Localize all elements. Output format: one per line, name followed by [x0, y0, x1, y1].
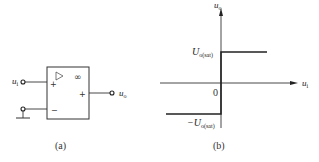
output-terminal: [110, 91, 114, 95]
infinity-icon: ∞: [74, 72, 82, 82]
diagram-canvas: ∞ + − + ui uo (a) uo: [0, 0, 319, 162]
amplifier-triangle-icon: [56, 72, 63, 80]
input-label: ui: [12, 76, 19, 87]
output-plus-sign: +: [79, 90, 86, 99]
figure-a: ∞ + − + ui uo (a): [12, 67, 127, 152]
caption-b: (b): [213, 140, 225, 152]
x-axis-arrow-icon: [290, 81, 298, 85]
upper-level-label: Uo(sat): [192, 46, 213, 59]
caption-a: (a): [55, 140, 66, 152]
origin-label: 0: [213, 87, 218, 98]
y-axis-label: uo: [214, 0, 222, 11]
input-terminal: [21, 80, 25, 84]
figure-b: uo ui 0 Uo(sat) −Uo(sat) (b): [160, 0, 309, 152]
x-axis-label: ui: [302, 78, 309, 89]
output-label: uo: [119, 88, 127, 99]
plus-input-sign: +: [50, 80, 57, 89]
ground-terminal: [21, 107, 25, 111]
lower-level-label: −Uo(sat): [187, 117, 215, 130]
minus-input-sign: −: [51, 106, 58, 115]
